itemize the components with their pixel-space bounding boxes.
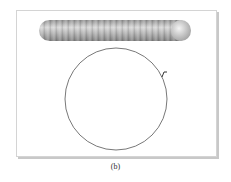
- circle-diagram: [0, 0, 231, 182]
- figure-caption: (b): [0, 162, 231, 171]
- circle-loop: [65, 48, 167, 150]
- arrow-marker-icon: [162, 72, 167, 77]
